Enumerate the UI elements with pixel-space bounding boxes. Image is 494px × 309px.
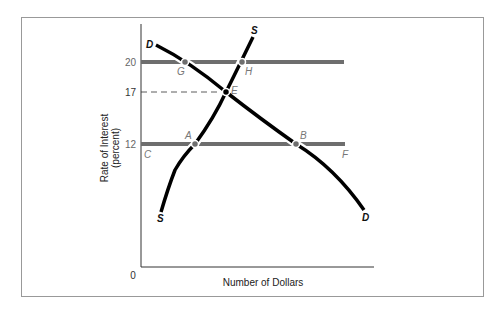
- demand-label-bottom: D: [362, 212, 369, 223]
- tick-12: 12: [125, 139, 137, 150]
- x-axis-title: Number of Dollars: [223, 277, 304, 288]
- point-f-label: F: [342, 149, 349, 160]
- point-g-label: G: [177, 66, 185, 77]
- point-a-marker: [192, 141, 199, 148]
- tick-17: 17: [125, 87, 137, 98]
- supply-label-top: S: [251, 25, 258, 36]
- point-b-label: B: [300, 130, 307, 141]
- origin-label: 0: [130, 270, 136, 281]
- diagram-canvas: 20 17 12 0 Number of Dollars Rate of Int…: [0, 0, 494, 309]
- figure-frame: [22, 18, 484, 297]
- demand-label-top: D: [146, 39, 153, 50]
- point-a-label: A: [184, 130, 192, 141]
- point-e-marker: [223, 89, 230, 96]
- demand-curve: [156, 45, 364, 210]
- point-h-marker: [239, 59, 246, 66]
- point-e-label: E: [231, 85, 238, 96]
- point-b-marker: [293, 141, 300, 148]
- supply-label-bottom: S: [157, 213, 164, 224]
- y-axis-subtitle: (percent): [110, 128, 121, 168]
- tick-20: 20: [125, 57, 137, 68]
- y-axis-title: Rate of Interest: [99, 114, 110, 183]
- point-h-label: H: [245, 66, 253, 77]
- point-g-marker: [182, 59, 189, 66]
- point-c-label: C: [144, 149, 152, 160]
